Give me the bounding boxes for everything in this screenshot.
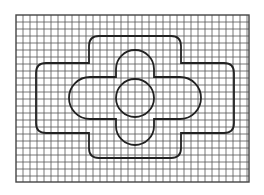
grid-diagram — [0, 0, 264, 195]
grid-lines — [16, 15, 249, 182]
